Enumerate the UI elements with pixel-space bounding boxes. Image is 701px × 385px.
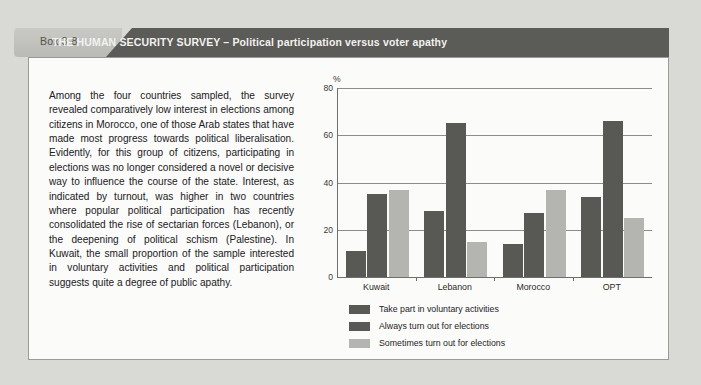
plot-area: 020406080 — [337, 88, 652, 278]
box-content-panel: Among the four countries sampled, the su… — [28, 57, 669, 360]
legend-item: Sometimes turn out for elections — [349, 336, 505, 350]
y-tick-label-20: 20 — [323, 225, 333, 235]
legend-swatch — [349, 339, 370, 348]
y-axis-unit-label: % — [333, 74, 341, 84]
x-axis-label-kuwait: Kuwait — [337, 282, 416, 292]
bar-group-morocco — [495, 88, 574, 277]
bar-groups — [338, 88, 652, 277]
x-axis-tick — [494, 277, 495, 281]
legend-swatch — [349, 322, 370, 331]
bar — [346, 251, 366, 277]
legend-swatch — [349, 305, 370, 314]
legend-label: Sometimes turn out for elections — [379, 338, 505, 348]
x-axis-label-lebanon: Lebanon — [416, 282, 495, 292]
bar-chart: % 020406080 KuwaitLebanonMoroccoOPT Take… — [291, 74, 661, 344]
box-title: THE HUMAN SECURITY SURVEY – Political pa… — [52, 36, 447, 48]
bar — [467, 242, 487, 277]
bar — [503, 244, 523, 277]
y-tick-label-0: 0 — [328, 272, 333, 282]
legend-label: Take part in voluntary activities — [379, 304, 499, 314]
legend-item: Take part in voluntary activities — [349, 302, 505, 316]
legend-label: Always turn out for elections — [379, 321, 489, 331]
bar — [624, 218, 644, 277]
bar — [446, 123, 466, 277]
y-tick-label-60: 60 — [323, 130, 333, 140]
y-tick-label-80: 80 — [323, 83, 333, 93]
bar — [424, 211, 444, 277]
x-axis-label-morocco: Morocco — [494, 282, 573, 292]
x-axis-label-opt: OPT — [573, 282, 652, 292]
legend-item: Always turn out for elections — [349, 319, 505, 333]
body-paragraph: Among the four countries sampled, the su… — [49, 89, 294, 290]
bar — [581, 197, 601, 277]
x-axis-labels: KuwaitLebanonMoroccoOPT — [337, 282, 651, 292]
bar-group-kuwait — [338, 88, 417, 277]
y-tick-label-40: 40 — [323, 178, 333, 188]
bar-group-lebanon — [417, 88, 496, 277]
chart-legend: Take part in voluntary activitiesAlways … — [349, 302, 505, 353]
x-axis-tick — [416, 277, 417, 281]
box-header: Box 3-8 THE HUMAN SECURITY SURVEY – Poli… — [14, 28, 669, 57]
bar-group-opt — [574, 88, 653, 277]
bar — [524, 213, 544, 277]
bar — [367, 194, 387, 277]
bar — [603, 121, 623, 277]
bar — [389, 190, 409, 277]
bar — [546, 190, 566, 277]
x-axis-tick — [573, 277, 574, 281]
